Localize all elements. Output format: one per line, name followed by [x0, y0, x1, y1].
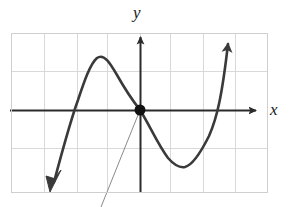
origin-point-marker: [135, 105, 146, 116]
y-axis-label: y: [133, 4, 141, 21]
x-axis-label: x: [270, 101, 278, 118]
curve-left-arrowhead: [46, 170, 61, 192]
graph-figure: y x: [0, 0, 289, 207]
cubic-graph-plot: [0, 0, 289, 207]
